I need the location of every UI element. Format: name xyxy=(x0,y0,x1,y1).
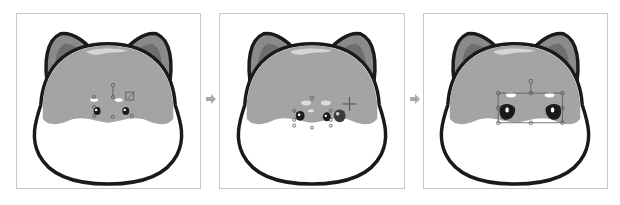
step-3-panel xyxy=(423,13,608,189)
arrow-right-icon xyxy=(409,93,421,105)
duplicated-eye xyxy=(334,109,346,122)
step-2-panel xyxy=(219,13,405,189)
step-1-panel xyxy=(16,13,201,189)
cat-face-illustration xyxy=(424,14,607,188)
right-brow-highlight xyxy=(115,98,123,102)
cat-face-illustration xyxy=(220,14,404,188)
cat-face-illustration xyxy=(17,14,200,188)
right-eye xyxy=(122,107,129,115)
arrow-right-icon xyxy=(205,93,217,105)
